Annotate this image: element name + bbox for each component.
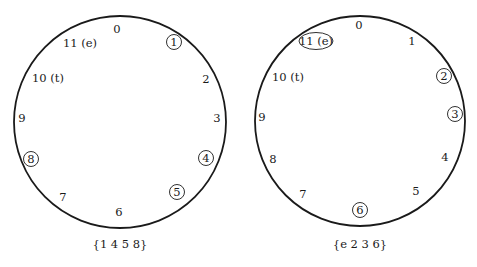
right-clock: 012345678910 (t)11 (e){e 2 3 6}	[255, 16, 465, 251]
pitch-class-label: 3	[213, 111, 220, 125]
pitch-class-label: 11 (e)	[299, 34, 333, 48]
set-caption: {1 4 5 8}	[93, 237, 148, 251]
pitch-class-label: 10 (t)	[32, 71, 64, 85]
pitch-class-label: 2	[440, 69, 447, 83]
pitch-class-label: 4	[202, 151, 209, 165]
clock-circle	[14, 16, 226, 228]
pitch-class-label: 3	[451, 107, 458, 121]
pitch-class-clock-diagrams: 012345678910 (t)11 (e){1 4 5 8}012345678…	[0, 0, 477, 267]
pitch-class-label: 1	[408, 34, 415, 48]
pitch-class-label: 9	[18, 111, 25, 125]
pitch-class-label: 1	[170, 35, 177, 49]
pitch-class-label: 0	[355, 18, 362, 32]
pitch-class-label: 0	[113, 22, 120, 36]
set-caption: {e 2 3 6}	[333, 237, 387, 251]
pitch-class-label: 6	[115, 205, 122, 219]
pitch-class-label: 5	[412, 184, 419, 198]
pitch-class-label: 11 (e)	[63, 36, 97, 50]
pitch-class-label: 4	[441, 150, 448, 164]
pitch-class-label: 7	[59, 190, 66, 204]
pitch-class-label: 5	[173, 185, 180, 199]
pitch-class-label: 10 (t)	[272, 70, 304, 84]
pitch-class-label: 2	[202, 72, 209, 86]
left-clock: 012345678910 (t)11 (e){1 4 5 8}	[14, 16, 226, 251]
pitch-class-label: 8	[27, 152, 34, 166]
pitch-class-label: 7	[299, 187, 306, 201]
clock-circle	[255, 16, 465, 226]
pitch-class-label: 9	[258, 110, 265, 124]
pitch-class-label: 6	[356, 203, 363, 217]
pitch-class-label: 8	[269, 152, 276, 166]
